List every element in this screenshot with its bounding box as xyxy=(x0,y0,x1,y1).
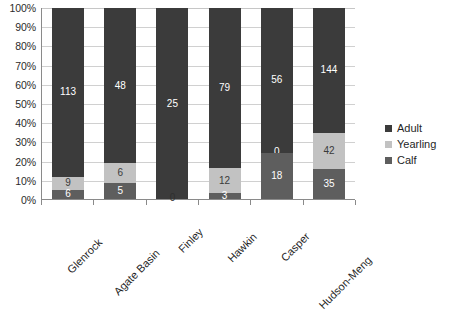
bar-segment-calf[interactable]: 5 xyxy=(104,183,136,199)
x-axis-category-label: Agate Basin xyxy=(111,247,161,297)
plot-area: 11396486525079123560181444235 xyxy=(41,8,355,200)
bar-segment-value: 113 xyxy=(60,87,76,97)
x-axis-category-label: Glenrock xyxy=(65,236,105,276)
y-axis-tick-label: 60% xyxy=(0,79,36,91)
bar-segment-adult[interactable]: 25 xyxy=(156,8,188,199)
y-axis-tick-label: 70% xyxy=(0,60,36,72)
bar-segment-value: 9 xyxy=(65,178,71,188)
bar-segment-calf[interactable]: 35 xyxy=(313,169,345,199)
bar-segment-adult[interactable]: 113 xyxy=(52,8,84,177)
bar-segment-value: 6 xyxy=(117,168,123,178)
bar-segment-yearling[interactable]: 6 xyxy=(104,163,136,182)
bar-segment-yearling[interactable]: 42 xyxy=(313,133,345,169)
legend-swatch-icon xyxy=(385,141,392,148)
bar-slot: 11396 xyxy=(42,8,94,199)
y-axis-tick-label: 40% xyxy=(0,117,36,129)
x-axis-tick xyxy=(355,200,356,205)
bar-segment-value: 12 xyxy=(219,176,230,186)
bar-slot: 250 xyxy=(146,8,198,199)
bar-segment-calf[interactable]: 18 xyxy=(261,153,293,199)
legend-swatch-icon xyxy=(385,125,392,132)
bar-segment-value: 42 xyxy=(323,146,334,156)
legend-label: Yearling xyxy=(397,139,436,150)
x-axis-category-label: Hudson-Meng xyxy=(316,254,373,311)
legend-label: Adult xyxy=(397,123,422,134)
stacked-bar[interactable]: 11396 xyxy=(52,8,84,199)
legend-swatch-icon xyxy=(385,157,392,164)
y-axis-tick-label: 0% xyxy=(0,194,36,206)
bar-segment-value: 5 xyxy=(117,186,123,196)
y-axis-tick-label: 80% xyxy=(0,40,36,52)
stacked-bar[interactable]: 79123 xyxy=(209,8,241,199)
bar-segment-value: 79 xyxy=(219,83,230,93)
bars-layer: 11396486525079123560181444235 xyxy=(42,8,355,199)
bar-segment-value: 25 xyxy=(167,99,178,109)
bar-segment-adult[interactable]: 48 xyxy=(104,8,136,163)
bar-segment-value: 35 xyxy=(323,179,334,189)
legend-item[interactable]: Calf xyxy=(385,155,436,166)
bar-segment-adult[interactable]: 56 xyxy=(261,8,293,153)
bar-segment-value: 6 xyxy=(65,189,71,199)
stacked-bar[interactable]: 4865 xyxy=(104,8,136,199)
bar-slot: 79123 xyxy=(199,8,251,199)
y-axis-tick-label: 90% xyxy=(0,21,36,33)
bar-segment-value: 18 xyxy=(271,171,282,181)
x-axis-category-label: Finley xyxy=(176,226,205,255)
bar-segment-value: 144 xyxy=(321,65,338,75)
bar-segment-calf[interactable]: 6 xyxy=(52,190,84,199)
y-axis-tick-label: 100% xyxy=(0,2,36,14)
bar-slot: 1444235 xyxy=(303,8,355,199)
stacked-bar[interactable]: 250 xyxy=(156,8,188,199)
stacked-bar[interactable]: 56018 xyxy=(261,8,293,199)
bar-slot: 56018 xyxy=(251,8,303,199)
bar-segment-adult[interactable]: 79 xyxy=(209,8,241,168)
y-axis-tick-label: 30% xyxy=(0,136,36,148)
bar-segment-adult[interactable]: 144 xyxy=(313,8,345,133)
bar-segment-value: 56 xyxy=(271,75,282,85)
y-axis-tick-label: 20% xyxy=(0,156,36,168)
bar-segment-calf[interactable]: 3 xyxy=(209,193,241,199)
legend-label: Calf xyxy=(397,155,417,166)
y-axis: 100%90%80%70%60%50%40%30%20%10%0% xyxy=(0,8,36,200)
x-axis-category-label: Casper xyxy=(278,230,312,264)
y-axis-tick-label: 50% xyxy=(0,98,36,110)
legend-item[interactable]: Adult xyxy=(385,123,436,134)
legend-item[interactable]: Yearling xyxy=(385,139,436,150)
y-axis-tick-label: 10% xyxy=(0,175,36,187)
stacked-bar[interactable]: 1444235 xyxy=(313,8,345,199)
chart-legend: AdultYearlingCalf xyxy=(385,123,436,166)
bar-segment-value: 48 xyxy=(115,81,126,91)
x-axis-category-labels: GlenrockAgate BasinFinleyHawkinCasperHud… xyxy=(41,203,355,273)
x-axis-category-label: Hawkin xyxy=(225,231,259,265)
bar-slot: 4865 xyxy=(94,8,146,199)
